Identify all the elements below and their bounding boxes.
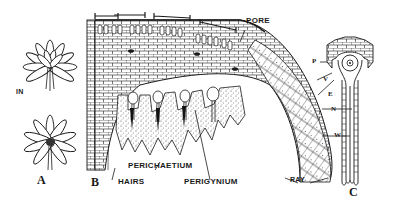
label-n: N [331,105,336,113]
label-perichaetium: PERICHAETIUM [128,161,193,170]
label-w: W [334,131,341,139]
rosette-bottom [23,115,77,170]
label-hairs: HAIRS [118,177,144,186]
label-e: E [328,90,333,98]
label-panel-b: B [91,175,99,190]
label-panel-a: A [37,173,46,188]
label-perigynium: PERIGYNIUM [184,177,238,186]
label-panel-c: C [349,185,358,200]
label-v: V [323,75,328,83]
head-section [95,12,332,182]
rosette-top [23,40,77,91]
label-p: P [312,57,317,65]
label-in: IN [16,88,24,95]
label-pore: PORE [246,16,270,25]
label-ray: RAY [290,176,305,183]
biological-diagram [0,0,400,205]
